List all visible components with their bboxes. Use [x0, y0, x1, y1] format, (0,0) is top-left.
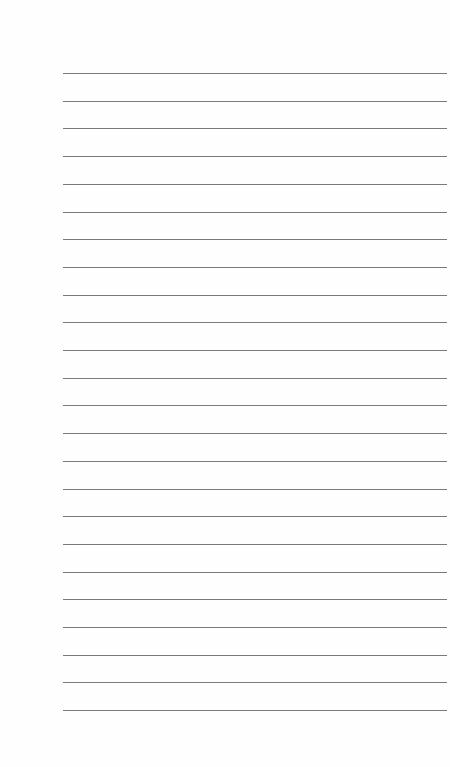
- ruled-line: [63, 128, 447, 129]
- ruled-line: [63, 405, 447, 406]
- ruled-line: [63, 682, 447, 683]
- ruled-line: [63, 184, 447, 185]
- ruled-line: [63, 239, 447, 240]
- ruled-line: [63, 544, 447, 545]
- ruled-line: [63, 516, 447, 517]
- ruled-line: [63, 295, 447, 296]
- ruled-line: [63, 627, 447, 628]
- ruled-line: [63, 378, 447, 379]
- ruled-line: [63, 433, 447, 434]
- ruled-line: [63, 156, 447, 157]
- ruled-line: [63, 655, 447, 656]
- ruled-line: [63, 267, 447, 268]
- lined-paper-page: [0, 0, 450, 767]
- ruled-line: [63, 101, 447, 102]
- ruled-line: [63, 599, 447, 600]
- ruled-line: [63, 212, 447, 213]
- ruled-line: [63, 350, 447, 351]
- ruled-line: [63, 572, 447, 573]
- ruled-line: [63, 73, 447, 74]
- ruled-line: [63, 322, 447, 323]
- ruled-line: [63, 489, 447, 490]
- ruled-line: [63, 710, 447, 711]
- ruled-line: [63, 461, 447, 462]
